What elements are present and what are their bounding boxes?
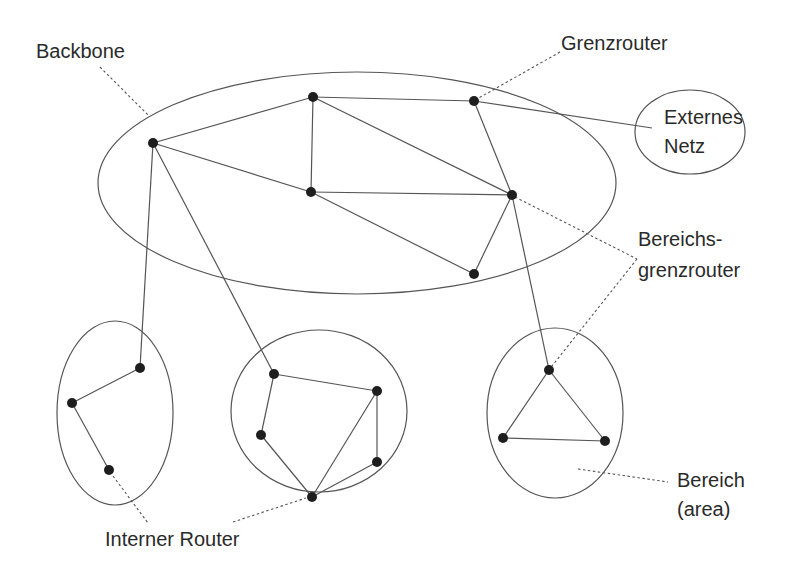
link: [313, 97, 512, 195]
link: [474, 195, 512, 274]
router-node-icon: [135, 363, 145, 373]
bereich-label-line2: (area): [677, 495, 730, 524]
router-node-icon: [600, 436, 610, 446]
region-ellipses: [57, 72, 745, 505]
backbone-callout: [100, 67, 149, 116]
internal-callout-2: [233, 498, 306, 522]
link: [261, 374, 274, 435]
link: [72, 403, 109, 470]
router-node-icon: [498, 433, 508, 443]
external-link: [474, 101, 652, 128]
router-node-icon: [67, 398, 77, 408]
router-node-icon: [269, 369, 279, 379]
link: [503, 370, 549, 438]
externes-netz-label-line1: Externes: [664, 103, 743, 132]
bereich-callout: [578, 469, 668, 482]
abr-callout-1: [515, 197, 637, 259]
router-node-icon: [256, 430, 266, 440]
region-area-middle: [231, 330, 407, 492]
link: [311, 192, 512, 195]
region-backbone: [98, 72, 616, 294]
router-node-icon: [544, 365, 554, 375]
link: [503, 438, 605, 441]
link: [153, 143, 274, 374]
link: [153, 143, 311, 192]
router-node-icon: [104, 465, 114, 475]
router-node-icon: [148, 138, 158, 148]
link: [274, 374, 377, 391]
region-area-right: [487, 328, 623, 498]
bereichsgrenzrouter-label-line1: Bereichs-: [638, 225, 722, 254]
link: [153, 97, 313, 143]
router-node-icon: [307, 492, 317, 502]
network-links: [72, 97, 652, 497]
grenzrouter-label: Grenzrouter: [561, 29, 668, 58]
link: [474, 101, 512, 195]
link: [549, 370, 605, 441]
externes-netz-label-line2: Netz: [664, 132, 705, 161]
link: [311, 97, 313, 192]
link: [72, 368, 140, 403]
link: [140, 143, 153, 368]
bereich-label-line1: Bereich: [677, 466, 745, 495]
router-nodes: [67, 92, 610, 502]
router-node-icon: [469, 96, 479, 106]
router-node-icon: [372, 386, 382, 396]
router-node-icon: [306, 187, 316, 197]
link: [311, 192, 474, 274]
region-area-left: [57, 321, 173, 505]
router-node-icon: [308, 92, 318, 102]
bereichsgrenzrouter-label-line2: grenzrouter: [638, 256, 740, 285]
backbone-label: Backbone: [36, 37, 125, 66]
link: [512, 195, 549, 370]
router-node-icon: [469, 269, 479, 279]
router-node-icon: [507, 190, 517, 200]
link: [312, 462, 377, 497]
callout-lines: [100, 52, 668, 523]
link: [312, 391, 377, 497]
link: [261, 435, 312, 497]
internal-callout-1: [113, 476, 148, 523]
grenzrouter-callout: [477, 52, 560, 99]
interner-router-label: Interner Router: [105, 525, 240, 554]
abr-callout-2: [552, 259, 637, 366]
router-node-icon: [372, 457, 382, 467]
link: [313, 97, 474, 101]
